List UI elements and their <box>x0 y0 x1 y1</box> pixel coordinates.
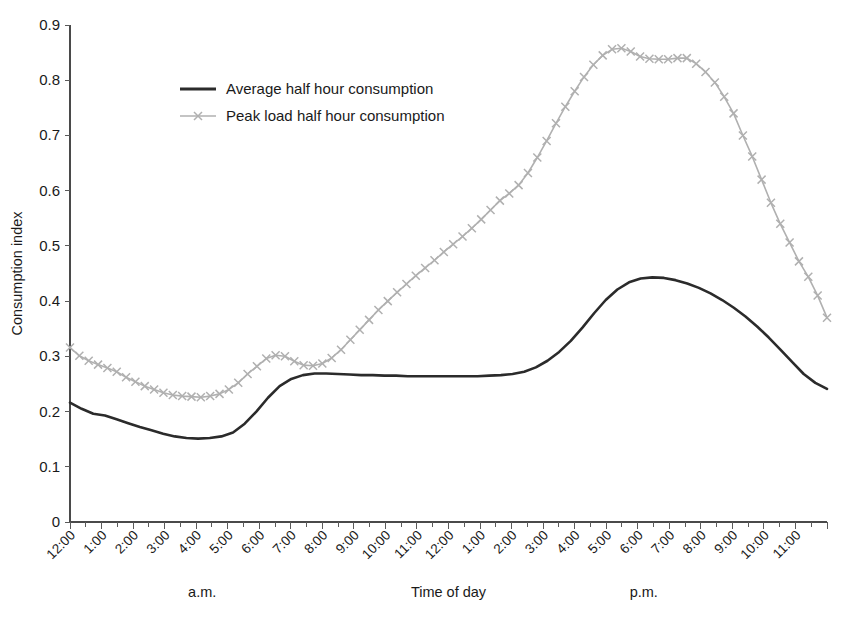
data-point-marker-x <box>141 382 149 390</box>
y-axis-tick-label: 0.5 <box>39 237 60 254</box>
x-axis-tick-label: 5:00 <box>585 528 614 557</box>
chart-legend: Average half hour consumptionPeak load h… <box>180 80 444 124</box>
data-point-marker-x <box>356 326 364 334</box>
y-axis-title: Consumption index <box>9 211 25 336</box>
x-axis-tick-label: 2:00 <box>112 528 141 557</box>
x-axis-tick-label: 8:00 <box>301 528 330 557</box>
x-axis-tick-label: 1:00 <box>459 528 488 557</box>
x-axis-tick-label: 6:00 <box>238 528 267 557</box>
y-axis-tick-label: 0.2 <box>39 403 60 420</box>
data-point-marker-x <box>814 292 822 300</box>
data-point-marker-x <box>627 48 635 56</box>
data-point-marker-x <box>561 103 569 111</box>
data-point-marker-x <box>720 93 728 101</box>
data-point-marker-x <box>374 306 382 314</box>
data-point-marker-x <box>571 87 579 95</box>
x-axis-tick-label: 6:00 <box>617 528 646 557</box>
data-point-marker-x <box>767 199 775 207</box>
legend-label: Peak load half hour consumption <box>226 107 444 124</box>
data-point-marker-x <box>795 257 803 265</box>
y-axis-tick-label: 0.1 <box>39 458 60 475</box>
data-point-marker-x <box>113 368 121 376</box>
x-axis-tick-label: 4:00 <box>554 528 583 557</box>
data-point-marker-x <box>692 60 700 68</box>
data-point-marker-x <box>552 119 560 127</box>
data-point-marker-x <box>543 137 551 145</box>
data-point-marker-x <box>533 154 541 162</box>
data-point-marker-x <box>234 379 242 387</box>
data-point-marker-x <box>430 256 438 264</box>
consumption-index-chart: 00.10.20.30.40.50.60.70.80.9 12:001:002:… <box>0 0 843 619</box>
data-point-marker-x <box>505 189 513 197</box>
period-label: p.m. <box>630 584 658 600</box>
x-axis-tick-label: 2:00 <box>491 528 520 557</box>
data-point-marker-x <box>477 215 485 223</box>
y-axis-tick-label: 0.8 <box>39 71 60 88</box>
data-point-marker-x <box>290 357 298 365</box>
plot-area <box>66 44 831 438</box>
x-axis-tick-label: 10:00 <box>359 528 394 563</box>
data-point-marker-x <box>131 378 139 386</box>
data-point-marker-x <box>804 273 812 281</box>
data-point-marker-x <box>515 181 523 189</box>
y-axis-tick-label: 0.7 <box>39 126 60 143</box>
data-point-marker-x <box>253 362 261 370</box>
data-point-marker-x <box>412 272 420 280</box>
y-axis-tick-label: 0.4 <box>39 292 60 309</box>
x-axis-tick-label: 4:00 <box>175 528 204 557</box>
x-axis: 12:001:002:003:004:005:006:007:008:009:0… <box>44 522 827 562</box>
x-axis-tick-label: 7:00 <box>270 528 299 557</box>
data-point-marker-x <box>75 352 83 360</box>
x-axis-tick-label: 7:00 <box>648 528 677 557</box>
series-line-peak-load <box>70 48 827 397</box>
data-point-marker-x <box>468 224 476 232</box>
x-axis-tick-label: 9:00 <box>333 528 362 557</box>
x-axis-tick-label: 12:00 <box>44 528 79 563</box>
y-axis-tick-label: 0 <box>52 513 60 530</box>
data-point-marker-x <box>346 336 354 344</box>
data-point-marker-x <box>122 373 130 381</box>
data-point-marker-x <box>150 385 158 393</box>
data-point-marker-x <box>393 288 401 296</box>
data-point-marker-x <box>337 346 345 354</box>
chart-canvas: 00.10.20.30.40.50.60.70.80.9 12:001:002:… <box>0 0 843 619</box>
data-point-marker-x <box>103 364 111 372</box>
data-point-marker-x <box>776 220 784 228</box>
data-point-marker-x <box>589 61 597 69</box>
data-point-marker-x <box>748 152 756 160</box>
x-axis-tick-label: 11:00 <box>391 528 425 562</box>
y-axis-tick-label: 0.6 <box>39 182 60 199</box>
data-point-marker-x <box>739 131 747 139</box>
data-point-marker-x <box>328 354 336 362</box>
data-point-marker-x <box>244 370 252 378</box>
data-point-marker-x <box>365 316 373 324</box>
y-axis-tick-label: 0.9 <box>39 16 60 33</box>
data-point-marker-x <box>85 357 93 365</box>
x-axis-tick-label: 11:00 <box>770 528 804 562</box>
data-point-marker-x <box>702 68 710 76</box>
data-point-marker-x <box>421 264 429 272</box>
data-point-marker-x <box>599 51 607 59</box>
period-label: a.m. <box>188 584 216 600</box>
y-axis: 00.10.20.30.40.50.60.70.80.9 <box>39 16 70 530</box>
data-point-marker-x <box>384 297 392 305</box>
data-point-marker-x <box>786 239 794 247</box>
series-line-average <box>70 277 827 438</box>
data-point-marker-x <box>440 248 448 256</box>
data-point-marker-x <box>580 73 588 81</box>
x-axis-tick-label: 8:00 <box>680 528 709 557</box>
y-axis-tick-label: 0.3 <box>39 347 60 364</box>
data-point-marker-x <box>262 355 270 363</box>
data-point-marker-x <box>730 109 738 117</box>
legend-label: Average half hour consumption <box>226 80 433 97</box>
x-axis-tick-label: 10:00 <box>738 528 773 563</box>
data-point-marker-x <box>94 361 102 369</box>
data-point-marker-x <box>496 197 504 205</box>
data-point-marker-x <box>823 314 831 322</box>
data-point-marker-x <box>711 78 719 86</box>
x-axis-tick-label: 5:00 <box>207 528 236 557</box>
data-point-marker-x <box>402 280 410 288</box>
data-point-marker-x <box>225 385 233 393</box>
data-point-marker-x <box>459 233 467 241</box>
x-axis-tick-label: 1:00 <box>80 528 109 557</box>
